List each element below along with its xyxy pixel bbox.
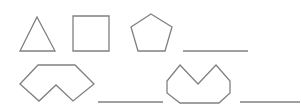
shapes-diagram: [0, 0, 301, 110]
pentagon-shape: [131, 14, 172, 51]
square-shape: [73, 16, 109, 51]
notched-hexagon-shape: [20, 65, 94, 101]
triangle-shape: [20, 17, 55, 51]
notched-octagon-shape: [167, 65, 230, 103]
